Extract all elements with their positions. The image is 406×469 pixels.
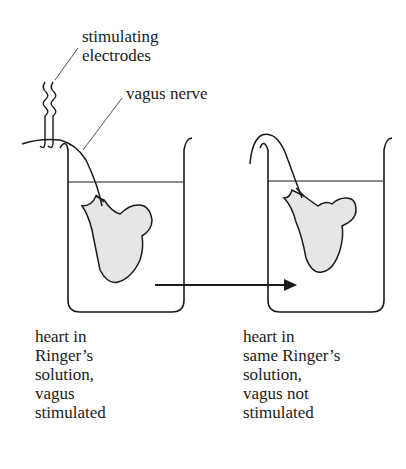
left-caption: heart in Ringer’s solution, vagus stimul… <box>35 327 106 422</box>
left-heart <box>82 196 152 283</box>
nerve-leader-line <box>83 98 122 150</box>
stimulating-electrodes <box>40 82 56 148</box>
right-caption-line: stimulated <box>243 403 340 422</box>
right-caption: heart in same Ringer’s solution, vagus n… <box>243 327 340 422</box>
right-caption-line: same Ringer’s <box>243 346 340 365</box>
left-caption-line: heart in <box>35 327 106 346</box>
electrodes-label-line-2: electrodes <box>82 46 159 65</box>
right-caption-line: solution, <box>243 365 340 384</box>
electrodes-leader-line <box>55 48 78 80</box>
left-caption-line: vagus <box>35 384 106 403</box>
nerve-label: vagus nerve <box>126 84 208 103</box>
left-caption-line: solution, <box>35 365 106 384</box>
right-heart <box>284 190 356 272</box>
electrodes-label: stimulating electrodes <box>82 27 159 65</box>
left-caption-line: stimulated <box>35 403 106 422</box>
right-caption-line: vagus not <box>243 384 340 403</box>
transfer-arrow <box>155 279 297 291</box>
right-caption-line: heart in <box>243 327 340 346</box>
electrodes-label-line-1: stimulating <box>82 27 159 46</box>
left-caption-line: Ringer’s <box>35 346 106 365</box>
left-vagus-nerve <box>22 140 102 207</box>
right-vagus-nerve <box>250 134 302 198</box>
